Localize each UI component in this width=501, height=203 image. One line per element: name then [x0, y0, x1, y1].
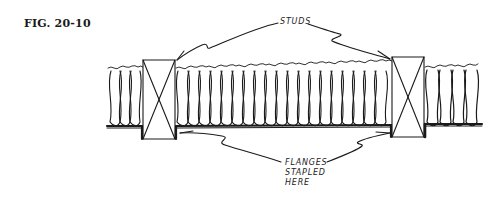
diagram-drawing [0, 0, 501, 203]
flanges-callout-line-1: FLANGES [285, 158, 327, 168]
studs-callout: STUDS [280, 17, 311, 27]
studs-leader-lines [177, 23, 390, 60]
flanges-callout-line-3: HERE [285, 178, 327, 188]
insulation-loops-right [425, 70, 478, 126]
insulation-stud-diagram: FIG. 20-10 [0, 0, 501, 203]
flanges-callout: FLANGES STAPLED HERE [285, 158, 327, 188]
left-stud [142, 60, 176, 139]
right-stud [391, 57, 425, 137]
insulation-loops-middle [176, 71, 387, 126]
insulation-loops-left [109, 71, 141, 126]
flanges-callout-line-2: STAPLED [285, 168, 327, 178]
